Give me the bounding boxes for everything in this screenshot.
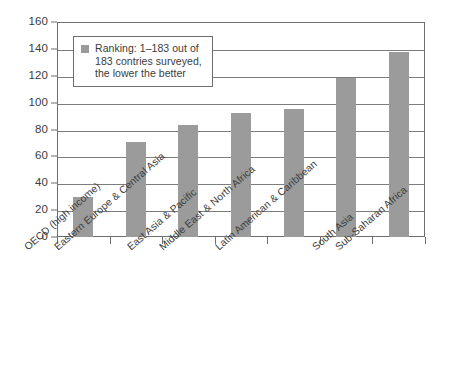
- x-axis-labels: OECD (high income) Eastern Europe & Cent…: [0, 244, 450, 368]
- y-tick-label-40: 40: [35, 177, 48, 189]
- y-tick-label-140: 140: [29, 43, 49, 55]
- legend-line-2: 183 contries surveyed,: [95, 55, 202, 68]
- legend-text: Ranking: 1–183 out of 183 contries surve…: [95, 42, 202, 80]
- x-tick-7: [425, 237, 426, 244]
- legend-line-3: the lower the better: [95, 67, 202, 80]
- bar-slot-latin-american-caribbean: [267, 22, 320, 237]
- y-tick-label-80: 80: [35, 124, 48, 136]
- bar-sub-saharan-africa: [389, 52, 409, 238]
- y-tick-label-120: 120: [29, 70, 49, 82]
- legend-swatch-icon: [81, 45, 89, 53]
- x-tick-6: [372, 237, 373, 244]
- x-axis-ticks: [57, 237, 425, 244]
- x-tick-1: [110, 237, 111, 244]
- bar-slot-south-asia: [320, 22, 373, 237]
- y-tick-label-60: 60: [35, 151, 48, 163]
- y-tick-label-100: 100: [29, 97, 49, 109]
- y-tick-label-160: 160: [29, 16, 49, 28]
- bar-chart-figure: 160 140 120 100 80 60 40 20 0: [0, 0, 450, 368]
- x-tick-4: [267, 237, 268, 244]
- y-tick-label-20: 20: [35, 204, 48, 216]
- chart-legend: Ranking: 1–183 out of 183 contries surve…: [73, 36, 213, 87]
- legend-line-1: Ranking: 1–183 out of: [95, 42, 202, 55]
